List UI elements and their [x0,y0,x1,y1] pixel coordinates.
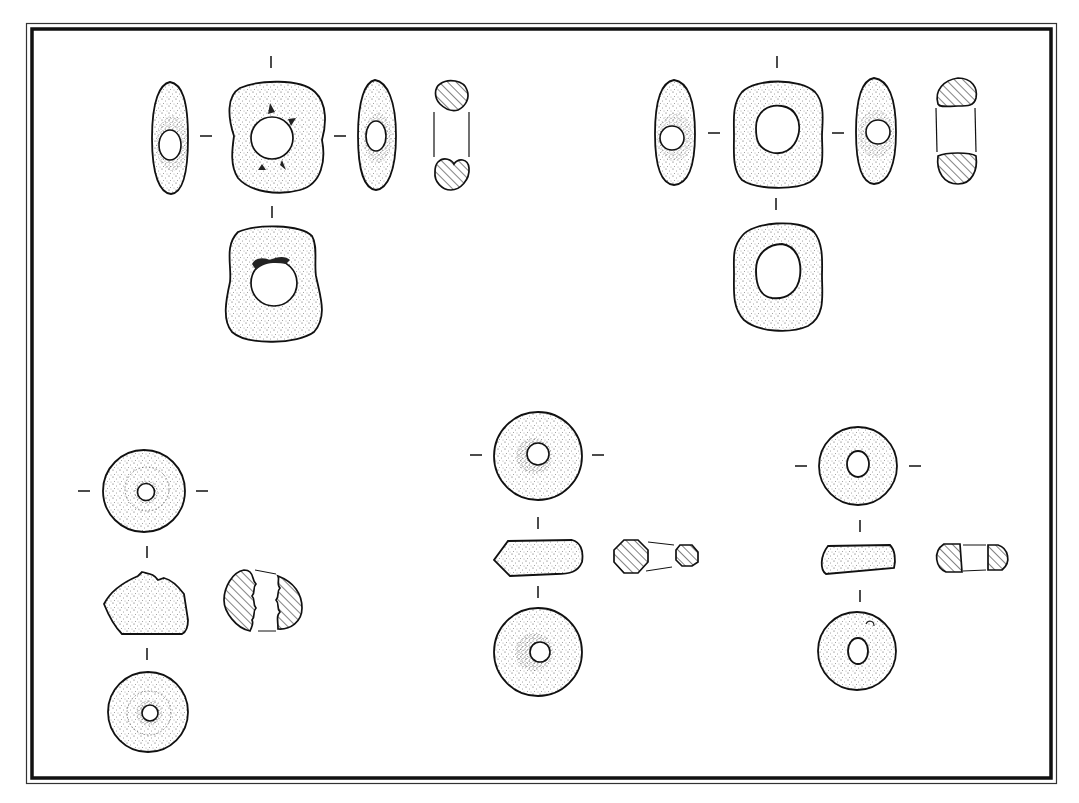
whorl-3-profile [104,572,188,634]
whorl-5-profile [822,545,895,574]
bead-2-section [936,78,976,184]
whorl-4-profile [494,540,583,576]
whorl-bottom-middle [470,412,698,696]
whorl-bottom-right [795,427,1008,690]
whorl-3-bottom-view [108,672,188,752]
whorl-4-bottom-view [494,608,582,696]
bead-2-right-profile [856,78,896,184]
bead-1-right-profile [358,80,396,190]
whorl-5-bottom-view [818,612,896,690]
bead-top-right [655,56,976,331]
bead-1-front-view [229,82,325,193]
whorl-4-section [614,540,698,573]
whorl-4-top-view [494,412,582,500]
bead-2-left-profile [655,80,695,185]
bead-1-left-profile [152,82,188,194]
bead-2-front-view [734,82,823,188]
bead-1-rear-view [226,226,322,341]
whorl-bottom-left [78,450,302,752]
illustration-plate [0,0,1079,803]
whorl-3-top-view [103,450,185,532]
whorl-5-top-view [819,427,897,505]
bead-top-left [152,56,469,342]
bead-2-rear-view [734,223,823,331]
whorl-3-section [224,570,302,631]
whorl-5-section [937,544,1008,572]
bead-1-section [434,81,469,190]
